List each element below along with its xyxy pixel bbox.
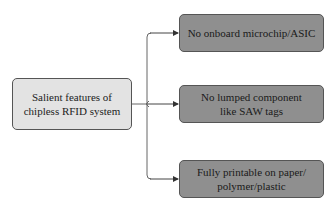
feature-node-label: No lumped component like SAW tags [194,90,309,118]
feature-node-no-lumped-component: No lumped component like SAW tags [179,85,324,123]
diagram-canvas: Salient features of chipless RFID system… [0,0,334,206]
feature-node-label: No onboard microchip/ASIC [188,26,316,40]
root-node-label: Salient features of chipless RFID system [22,90,122,118]
feature-node-no-microchip: No onboard microchip/ASIC [179,14,324,52]
feature-node-label: Fully printable on paper/ polymer/plasti… [193,165,311,193]
feature-node-fully-printable: Fully printable on paper/ polymer/plasti… [179,160,324,198]
root-node: Salient features of chipless RFID system [12,78,132,130]
